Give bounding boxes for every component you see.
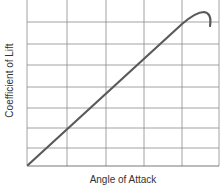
y-axis-label: Coefficient of Lift xyxy=(4,36,15,126)
lift-curve-line xyxy=(28,12,210,165)
lift-curve-chart xyxy=(0,0,222,189)
grid xyxy=(27,0,219,166)
x-axis-label: Angle of Attack xyxy=(27,174,219,185)
